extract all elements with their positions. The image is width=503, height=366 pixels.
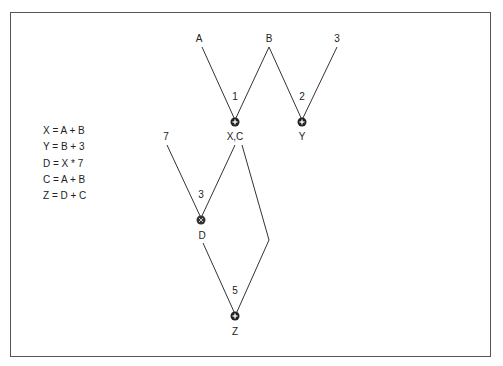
input-7-label: 7	[163, 131, 169, 142]
input-3-label: 3	[334, 33, 340, 44]
node-y-plus-icon	[298, 118, 307, 127]
step-3-label: 3	[198, 189, 204, 200]
step-5-label: 5	[232, 285, 238, 296]
equation-d: D = X * 7	[43, 156, 86, 172]
equation-x: X = A + B	[43, 123, 86, 139]
edge-d-to-z	[203, 243, 235, 314]
step-1-label: 1	[232, 91, 238, 102]
node-xc-plus-icon	[231, 118, 240, 127]
node-xc-label: X,C	[227, 131, 244, 142]
edge-b-to-y	[269, 47, 302, 120]
input-a-label: A	[196, 33, 203, 44]
edge-xc-to-d	[201, 145, 235, 218]
input-b-label: B	[266, 33, 273, 44]
node-d-multiply-icon	[197, 216, 206, 225]
edge-7-to-d	[167, 145, 201, 218]
equation-z: Z = D + C	[43, 188, 86, 204]
edge-3-to-y	[302, 47, 337, 120]
edge-a-to-xc	[202, 47, 235, 120]
edge-xc-to-z	[236, 145, 269, 314]
node-y-label: Y	[299, 131, 306, 142]
equation-c: C = A + B	[43, 172, 86, 188]
edges	[167, 47, 337, 314]
equation-list: X = A + B Y = B + 3 D = X * 7 C = A + B …	[43, 123, 86, 204]
edge-b-to-xc	[235, 47, 269, 120]
step-2-label: 2	[299, 91, 305, 102]
node-z-label: Z	[232, 326, 238, 337]
node-d-label: D	[198, 230, 205, 241]
node-z-plus-icon	[231, 312, 240, 321]
equation-y: Y = B + 3	[43, 139, 86, 155]
